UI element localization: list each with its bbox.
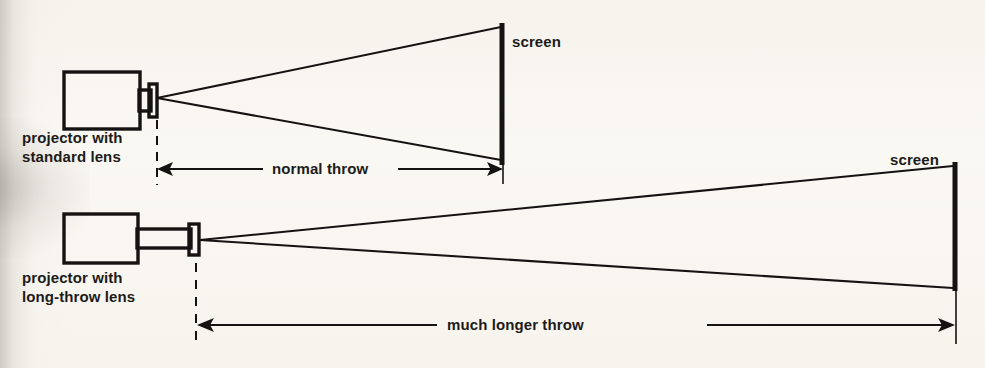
bottom-screen-label: screen — [890, 151, 939, 168]
top-throw-label: normal throw — [272, 160, 368, 177]
top-lens-flange — [149, 84, 157, 117]
bottom-projector-body — [64, 214, 138, 263]
top-projector-caption-line2: standard lens — [22, 147, 123, 166]
diagram-artwork — [0, 0, 985, 368]
bottom-projector-caption: projector with long-throw lens — [22, 268, 135, 306]
bottom-light-cone-lower-ray — [200, 240, 953, 288]
top-projector-caption-line1: projector with — [22, 128, 123, 147]
top-projector-body — [64, 72, 140, 129]
bottom-projector-caption-line2: long-throw lens — [22, 287, 135, 306]
top-light-cone-upper-ray — [157, 27, 501, 98]
bottom-lens-barrel — [137, 229, 191, 248]
top-screen-label: screen — [512, 33, 561, 50]
bottom-throw-label: much longer throw — [447, 316, 584, 333]
top-light-cone-lower-ray — [157, 98, 501, 160]
top-projector-caption: projector with standard lens — [22, 128, 123, 166]
bottom-projector-caption-line1: projector with — [22, 268, 135, 287]
bottom-light-cone-upper-ray — [200, 166, 953, 240]
diagram-page: projector with standard lens screen norm… — [0, 0, 985, 368]
bottom-lens-flange — [189, 224, 199, 255]
